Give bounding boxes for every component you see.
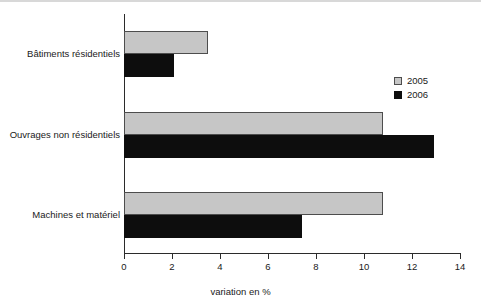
x-tick-6 bbox=[268, 254, 269, 259]
x-tick-label-4: 4 bbox=[205, 261, 235, 273]
x-tick-0 bbox=[124, 254, 125, 259]
bar-2005-cat2[interactable] bbox=[124, 192, 383, 215]
bar-2006-cat2[interactable] bbox=[124, 215, 302, 238]
category-label-batiments-residentiels: Bâtiments résidentiels bbox=[4, 48, 120, 60]
plot-area bbox=[124, 14, 460, 253]
legend-swatch-2006-icon bbox=[394, 91, 402, 99]
legend: 2005 2006 bbox=[394, 75, 428, 103]
bar-chart: Bâtiments résidentiels Ouvrages non rési… bbox=[0, 0, 481, 308]
x-tick-10 bbox=[364, 254, 365, 259]
x-tick-label-10: 10 bbox=[349, 261, 379, 273]
x-axis-line bbox=[124, 253, 461, 254]
category-label-ouvrages-non-residentiels: Ouvrages non résidentiels bbox=[4, 129, 120, 141]
legend-label-2005: 2005 bbox=[407, 75, 428, 87]
x-tick-label-8: 8 bbox=[301, 261, 331, 273]
x-tick-label-14: 14 bbox=[445, 261, 475, 273]
legend-swatch-2005-icon bbox=[394, 77, 402, 85]
x-tick-label-0: 0 bbox=[109, 261, 139, 273]
x-tick-label-6: 6 bbox=[253, 261, 283, 273]
category-axis-labels: Bâtiments résidentiels Ouvrages non rési… bbox=[0, 0, 120, 308]
x-tick-8 bbox=[316, 254, 317, 259]
bar-2005-cat0[interactable] bbox=[124, 31, 208, 54]
bar-2006-cat0[interactable] bbox=[124, 54, 174, 77]
legend-label-2006: 2006 bbox=[407, 89, 428, 101]
x-tick-14 bbox=[460, 254, 461, 259]
bar-2005-cat1[interactable] bbox=[124, 112, 383, 135]
x-tick-label-12: 12 bbox=[397, 261, 427, 273]
legend-item-2006[interactable]: 2006 bbox=[394, 89, 428, 101]
category-label-machines-et-materiel: Machines et matériel bbox=[4, 209, 120, 221]
x-tick-2 bbox=[172, 254, 173, 259]
bar-2006-cat1[interactable] bbox=[124, 135, 434, 158]
x-tick-4 bbox=[220, 254, 221, 259]
x-tick-label-2: 2 bbox=[157, 261, 187, 273]
x-axis-title: variation en % bbox=[0, 286, 481, 298]
legend-item-2005[interactable]: 2005 bbox=[394, 75, 428, 87]
x-tick-12 bbox=[412, 254, 413, 259]
